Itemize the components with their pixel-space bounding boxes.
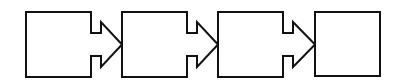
step-3-arrow-box xyxy=(218,12,315,77)
process-flow-diagram xyxy=(0,0,401,80)
step-1-arrow-box xyxy=(26,12,122,77)
step-3 xyxy=(218,12,315,77)
step-1 xyxy=(26,12,122,77)
step-4-box xyxy=(315,12,380,76)
step-2-arrow-box xyxy=(122,12,218,77)
step-2 xyxy=(122,12,218,77)
step-4 xyxy=(315,12,380,76)
